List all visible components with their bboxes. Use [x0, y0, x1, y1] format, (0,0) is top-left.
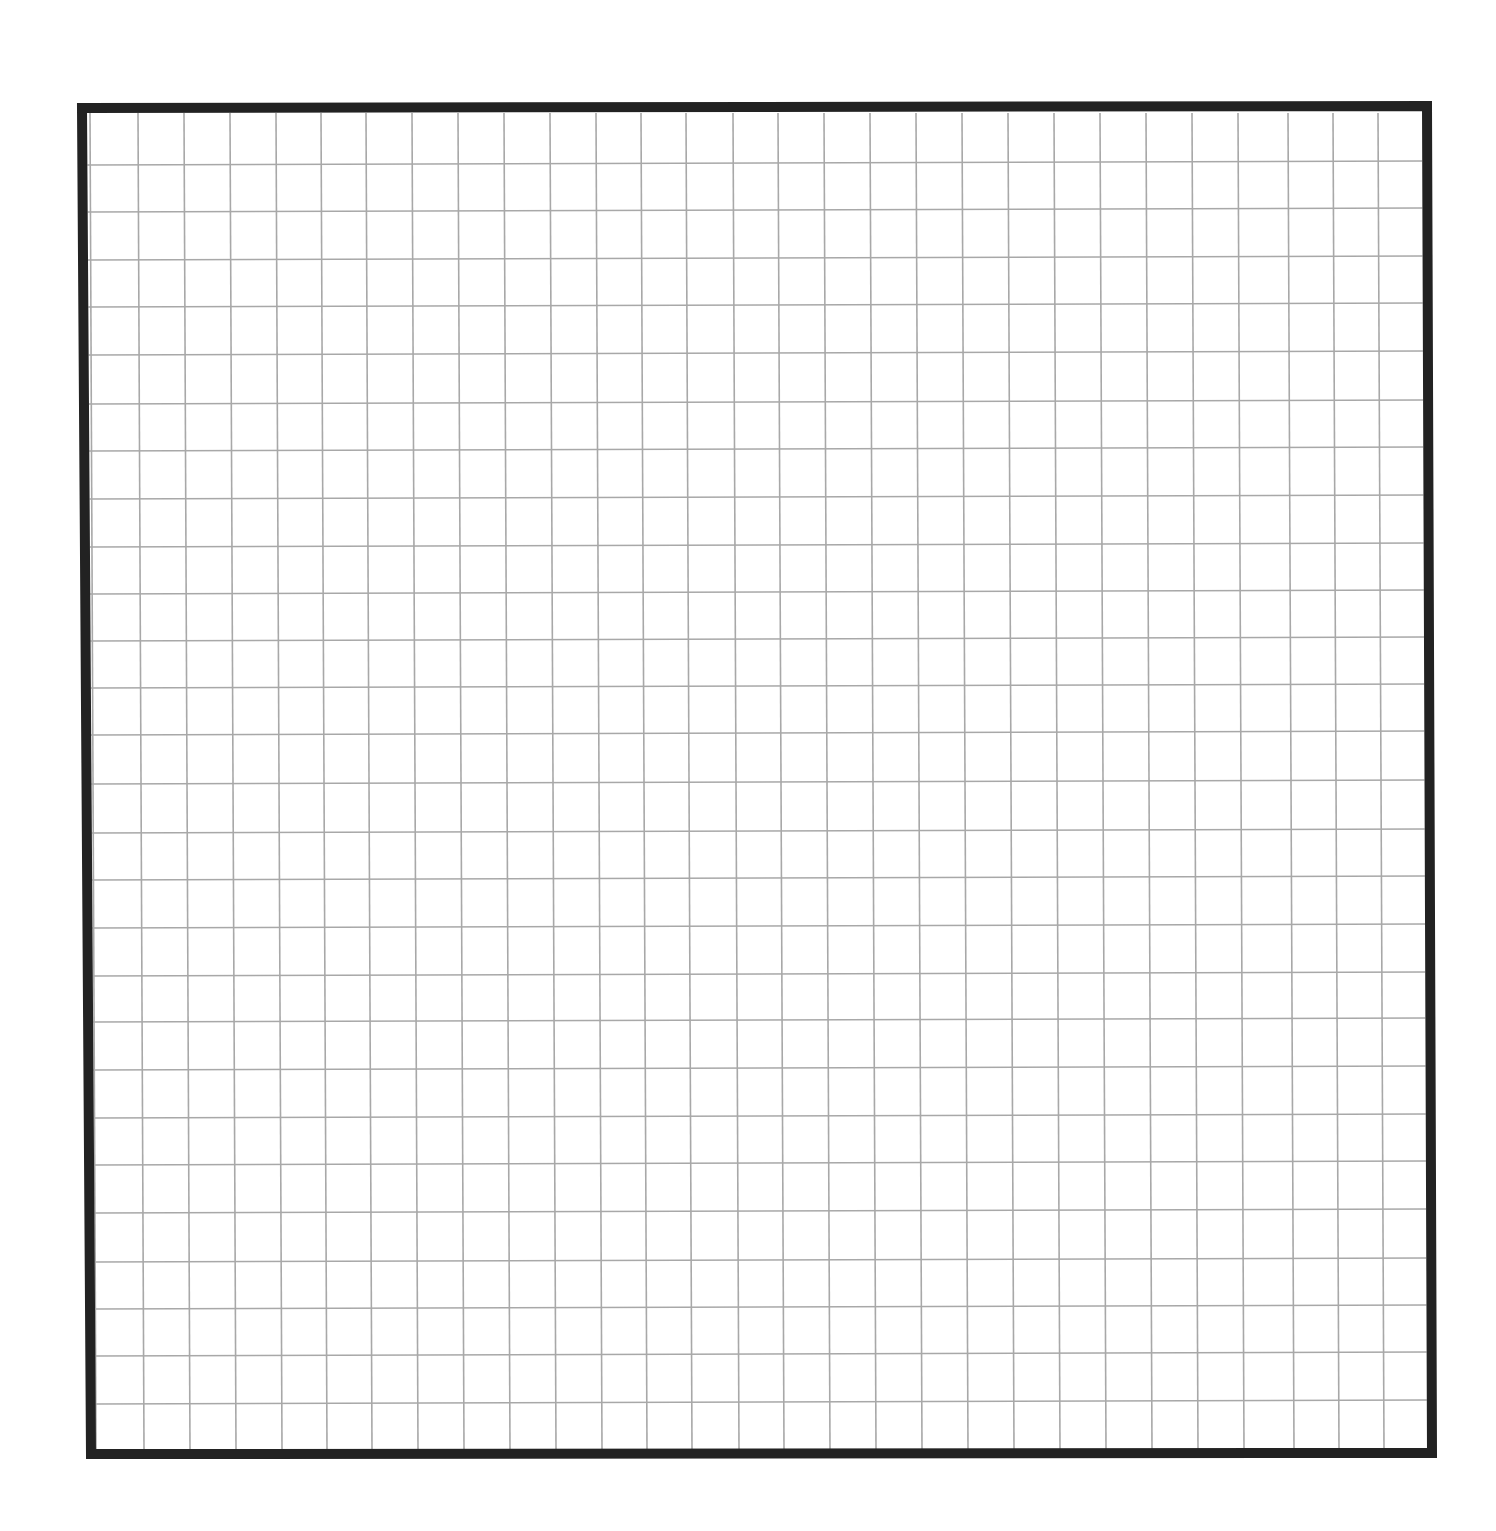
- page-background: [0, 0, 1496, 1531]
- graph-paper-sheet: [0, 0, 1496, 1531]
